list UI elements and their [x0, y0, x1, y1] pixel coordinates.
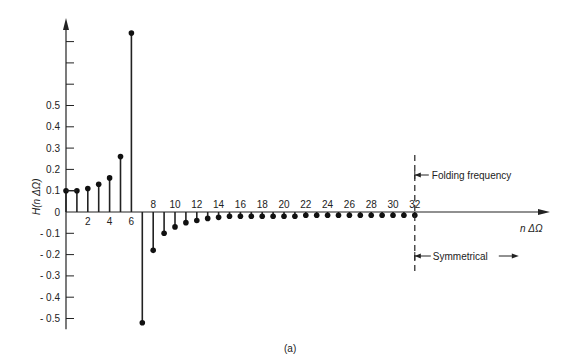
- x-tick-label: 20: [278, 199, 290, 210]
- figure-caption: (a): [284, 343, 296, 354]
- stem-marker: [96, 182, 102, 188]
- stem-marker: [281, 213, 287, 219]
- folding-frequency-label: Folding frequency: [432, 170, 512, 181]
- symmetrical-label: Symmetrical: [433, 251, 488, 262]
- y-axis-arrow-icon: [63, 18, 69, 30]
- y-axis-label: H(n ΔΩ): [31, 178, 42, 215]
- arrow-right-icon: [512, 254, 519, 259]
- stem-marker: [401, 212, 407, 218]
- x-axis-label: n ΔΩ: [520, 223, 543, 234]
- x-axis-arrow-icon: [538, 209, 550, 215]
- stem-marker: [303, 212, 309, 218]
- stem-series: [63, 30, 417, 325]
- y-tick-label: 0.1: [46, 185, 60, 196]
- stem-marker: [172, 224, 178, 230]
- x-tick-label: 24: [322, 199, 334, 210]
- arrow-left-icon: [415, 173, 421, 178]
- stem-marker: [390, 212, 396, 218]
- x-tick-label: 30: [387, 199, 399, 210]
- stem-marker: [270, 213, 276, 219]
- stem-marker: [336, 212, 342, 218]
- y-tick-label: - 0.5: [40, 313, 60, 324]
- stem-marker: [161, 231, 167, 237]
- stem-marker: [249, 213, 255, 219]
- stem-marker: [205, 216, 211, 222]
- stem-marker: [358, 212, 364, 218]
- y-tick-label: - 0.2: [40, 249, 60, 260]
- x-tick-label: 14: [213, 199, 225, 210]
- x-tick-label: 2: [85, 216, 91, 227]
- x-tick-label: 18: [257, 199, 269, 210]
- x-tick-label: 22: [300, 199, 312, 210]
- y-tick-label: 0.4: [46, 121, 60, 132]
- stem-marker: [118, 154, 124, 160]
- x-tick-label: 28: [366, 199, 378, 210]
- x-tick-label: 6: [129, 216, 135, 227]
- stem-marker: [183, 220, 189, 226]
- y-tick-label: - 0.3: [40, 270, 60, 281]
- arrow-left-icon: [415, 254, 421, 259]
- annotations: Folding frequencySymmetrical: [415, 155, 519, 272]
- x-tick-label: 10: [169, 199, 181, 210]
- stem-marker: [194, 218, 200, 224]
- y-tick-label: 0.2: [46, 164, 60, 175]
- stem-marker: [292, 213, 298, 219]
- y-tick-label: - 0.4: [40, 292, 60, 303]
- stem-marker: [227, 213, 233, 219]
- x-tick-label: 4: [107, 216, 113, 227]
- x-tick-label: 26: [344, 199, 356, 210]
- x-tick-label: 12: [191, 199, 203, 210]
- stem-marker: [129, 30, 135, 36]
- x-tick-label: 16: [235, 199, 247, 210]
- y-tick-label: 0.3: [46, 143, 60, 154]
- x-tick-label: 8: [150, 199, 156, 210]
- stem-marker: [150, 248, 156, 254]
- stem-marker: [85, 186, 91, 192]
- stem-marker: [259, 213, 265, 219]
- stem-marker: [314, 212, 320, 218]
- y-tick-label: 0.5: [46, 100, 60, 111]
- stem-marker: [368, 212, 374, 218]
- stem-marker: [325, 212, 331, 218]
- stem-marker: [216, 215, 222, 221]
- stem-chart: 0.50.40.30.20.10- 0.1- 0.2- 0.3- 0.4- 0.…: [0, 0, 564, 361]
- stem-marker: [347, 212, 353, 218]
- stem-marker: [107, 175, 113, 181]
- stem-marker: [238, 213, 244, 219]
- y-tick-label: 0: [54, 207, 60, 218]
- stem-marker: [140, 320, 146, 326]
- stem-marker: [379, 212, 385, 218]
- y-tick-label: - 0.1: [40, 228, 60, 239]
